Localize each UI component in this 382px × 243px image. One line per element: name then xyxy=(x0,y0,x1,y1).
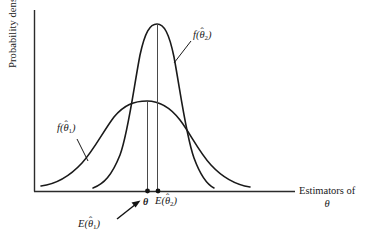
hat-accent-icon: ˆ xyxy=(166,193,169,203)
curve-label-f-theta-1: f(ˆθ1) xyxy=(57,123,76,135)
curve-label-f-theta-2-close: ) xyxy=(208,29,212,40)
y-axis-label: Probability density xyxy=(8,36,19,52)
hat-accent-icon: ˆ xyxy=(200,27,203,37)
leader-line-f-theta-2 xyxy=(174,41,191,63)
axis-dot-theta xyxy=(145,189,150,194)
x-axis-label-line2: θ xyxy=(299,199,355,210)
density-curve-estimator-1 xyxy=(41,101,250,187)
axis-dot-e-theta-2 xyxy=(156,189,161,194)
annotation-e-theta-1: E(ˆθ1) xyxy=(78,219,100,231)
hat-accent-icon: ˆ xyxy=(64,120,67,130)
annotation-e-theta-1-theta-hat: ˆθ xyxy=(88,219,93,230)
axis-label-theta: θ xyxy=(143,197,148,207)
curve-label-f-theta-1-theta-hat: ˆθ xyxy=(63,123,68,134)
x-axis-label: Estimators ofθ xyxy=(299,186,355,209)
curve-label-f-theta-2-theta-hat: ˆθ xyxy=(199,30,204,41)
curve-label-f-theta-1-close: ) xyxy=(72,122,76,133)
axis-label-e-theta-2-close: ) xyxy=(174,195,178,206)
hat-accent-icon: ˆ xyxy=(89,216,92,226)
annotation-e-theta-1-close: ) xyxy=(97,218,101,229)
arrow-e-theta-1 xyxy=(117,201,141,220)
x-axis-label-line1: Estimators of xyxy=(299,185,355,196)
curve-label-f-theta-2: f(ˆθ2) xyxy=(193,30,212,42)
axis-label-e-theta-2: E(ˆθ2) xyxy=(155,196,177,208)
leader-line-f-theta-1 xyxy=(77,139,88,161)
density-curve-estimator-2 xyxy=(93,24,214,188)
y-axis-label-text: Probability density xyxy=(8,52,19,68)
axis-label-e-theta-2-theta-hat: ˆθ xyxy=(165,196,170,207)
